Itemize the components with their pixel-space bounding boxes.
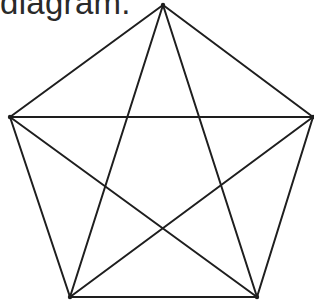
pentagon-pentagram-diagram [0,0,314,300]
edge-upper-right-lower-left [70,117,313,297]
edge-lower-left-upper-left [10,117,70,297]
edge-upper-left-lower-right [10,117,257,297]
edge-top-lower-right [163,5,257,297]
vertex-upper-left [8,115,12,119]
edge-upper-right-lower-right [257,117,313,297]
vertex-top [161,3,165,7]
edge-top-lower-left [70,5,163,297]
vertex-lower-left [68,295,72,299]
edge-top-upper-right [163,5,313,117]
edge-upper-left-top [10,5,163,117]
vertex-lower-right [255,295,259,299]
